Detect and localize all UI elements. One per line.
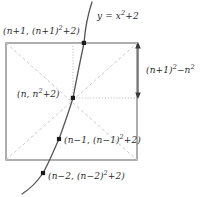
point-marker-n xyxy=(71,96,75,100)
curve-equation-label: y = x2+2 xyxy=(97,12,139,21)
gap-arrow-head-down xyxy=(135,93,141,100)
parabola-rectangle-figure: (n+1, (n+1)2+2) y = x2+2 (n+1)2−n2 (n, n… xyxy=(0,0,205,197)
point-n-minus-2-label: (n−2, (n−2)2+2) xyxy=(48,172,125,181)
point-marker-n-minus-1 xyxy=(57,137,61,141)
point-n-minus-1-label: (n−1, (n−1)2+2) xyxy=(64,136,141,145)
point-marker-n-minus-2 xyxy=(41,171,45,175)
point-n-label: (n, n2+2) xyxy=(17,90,60,99)
point-n-plus-1-label: (n+1, (n+1)2+2) xyxy=(3,27,80,36)
point-marker-n-plus-1 xyxy=(82,41,86,45)
gap-bracket-label: (n+1)2−n2 xyxy=(146,66,195,75)
